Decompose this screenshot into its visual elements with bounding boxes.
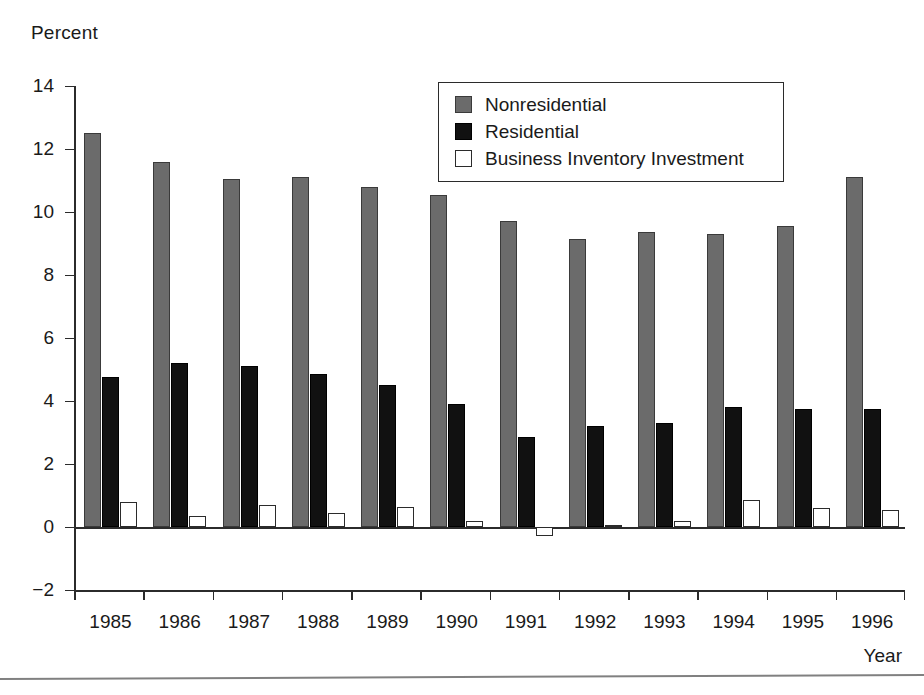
y-tick-mark bbox=[65, 275, 75, 277]
x-tick-label: 1996 bbox=[851, 612, 893, 631]
zero-baseline bbox=[74, 527, 905, 529]
x-tick-mark bbox=[282, 590, 284, 600]
bar-1991-0 bbox=[500, 221, 517, 527]
x-tick-label: 1993 bbox=[643, 612, 685, 631]
x-tick-mark bbox=[697, 590, 699, 600]
bar-1993-0 bbox=[638, 232, 655, 527]
y-tick-mark bbox=[65, 338, 75, 340]
legend-item-0: Nonresidential bbox=[455, 91, 771, 118]
bar-1992-2 bbox=[605, 525, 622, 527]
x-tick-label: 1987 bbox=[228, 612, 270, 631]
bar-1995-1 bbox=[795, 409, 812, 527]
bar-1989-1 bbox=[379, 385, 396, 527]
bar-1988-0 bbox=[292, 177, 309, 527]
x-tick-label: 1990 bbox=[436, 612, 478, 631]
x-tick-label: 1991 bbox=[505, 612, 547, 631]
y-tick-label: 4 bbox=[8, 391, 54, 410]
bar-1988-1 bbox=[310, 374, 327, 527]
y-tick-label: −2 bbox=[8, 580, 54, 599]
outline-white-swatch bbox=[455, 150, 472, 167]
y-tick-label: 10 bbox=[8, 202, 54, 221]
bar-1985-0 bbox=[84, 133, 101, 527]
y-tick-mark bbox=[65, 149, 75, 151]
bar-1992-0 bbox=[569, 239, 586, 527]
x-tick-mark bbox=[213, 590, 215, 600]
bar-1989-2 bbox=[397, 507, 414, 527]
y-tick-label: 0 bbox=[8, 517, 54, 536]
bar-1993-2 bbox=[674, 521, 691, 527]
y-tick-mark bbox=[65, 401, 75, 403]
bar-1989-0 bbox=[361, 187, 378, 527]
y-tick-mark bbox=[65, 212, 75, 214]
legend-item-label: Nonresidential bbox=[485, 95, 606, 114]
bar-1990-1 bbox=[448, 404, 465, 527]
y-tick-mark bbox=[65, 464, 75, 466]
x-tick-mark bbox=[420, 590, 422, 600]
y-tick-label: 2 bbox=[8, 454, 54, 473]
x-tick-mark bbox=[351, 590, 353, 600]
x-tick-mark bbox=[559, 590, 561, 600]
legend-item-label: Business Inventory Investment bbox=[485, 149, 744, 168]
y-tick-mark bbox=[65, 527, 75, 529]
bar-1986-1 bbox=[171, 363, 188, 527]
x-tick-mark bbox=[767, 590, 769, 600]
bar-1993-1 bbox=[656, 423, 673, 527]
y-tick-label: 8 bbox=[8, 265, 54, 284]
y-tick-label: 12 bbox=[8, 139, 54, 158]
bar-1987-1 bbox=[241, 366, 258, 527]
bar-1988-2 bbox=[328, 513, 345, 527]
x-tick-label: 1989 bbox=[366, 612, 408, 631]
x-tick-mark bbox=[490, 590, 492, 600]
bar-1994-1 bbox=[725, 407, 742, 527]
x-tick-mark bbox=[836, 590, 838, 600]
x-tick-mark bbox=[143, 590, 145, 600]
filled-black-swatch bbox=[455, 123, 472, 140]
footer-rule bbox=[0, 674, 924, 680]
bar-1991-2 bbox=[536, 527, 553, 536]
x-tick-label: 1986 bbox=[159, 612, 201, 631]
x-tick-mark bbox=[74, 590, 76, 600]
bar-1996-2 bbox=[882, 510, 899, 527]
legend-item-1: Residential bbox=[455, 118, 771, 145]
bar-1990-0 bbox=[430, 195, 447, 527]
y-tick-label: 14 bbox=[8, 76, 54, 95]
x-tick-label: 1995 bbox=[782, 612, 824, 631]
x-axis-title: Year bbox=[864, 645, 902, 667]
bar-1987-0 bbox=[223, 179, 240, 527]
y-axis-title: Percent bbox=[31, 22, 98, 44]
bar-1986-0 bbox=[153, 162, 170, 527]
bar-1996-0 bbox=[846, 177, 863, 527]
bar-1994-0 bbox=[707, 234, 724, 527]
bar-1995-0 bbox=[777, 226, 794, 527]
bar-1990-2 bbox=[466, 521, 483, 527]
x-tick-label: 1985 bbox=[89, 612, 131, 631]
x-tick-label: 1988 bbox=[297, 612, 339, 631]
bar-1992-1 bbox=[587, 426, 604, 527]
y-tick-label: 6 bbox=[8, 328, 54, 347]
bar-1996-1 bbox=[864, 409, 881, 527]
chart-legend: NonresidentialResidentialBusiness Invent… bbox=[438, 82, 784, 182]
bar-1995-2 bbox=[813, 508, 830, 527]
filled-gray-swatch bbox=[455, 96, 472, 113]
x-tick-label: 1992 bbox=[574, 612, 616, 631]
bar-chart-figure: Percent Year 14121086420−219851986198719… bbox=[0, 0, 924, 695]
bar-1987-2 bbox=[259, 505, 276, 527]
x-tick-mark bbox=[904, 590, 906, 600]
legend-item-2: Business Inventory Investment bbox=[455, 145, 771, 172]
bar-1994-2 bbox=[743, 500, 760, 527]
bar-1985-1 bbox=[102, 377, 119, 527]
bar-1985-2 bbox=[120, 502, 137, 527]
x-tick-mark bbox=[628, 590, 630, 600]
bar-1991-1 bbox=[518, 437, 535, 527]
x-tick-label: 1994 bbox=[713, 612, 755, 631]
y-tick-mark bbox=[65, 86, 75, 88]
legend-item-label: Residential bbox=[485, 122, 579, 141]
bar-1986-2 bbox=[189, 516, 206, 527]
